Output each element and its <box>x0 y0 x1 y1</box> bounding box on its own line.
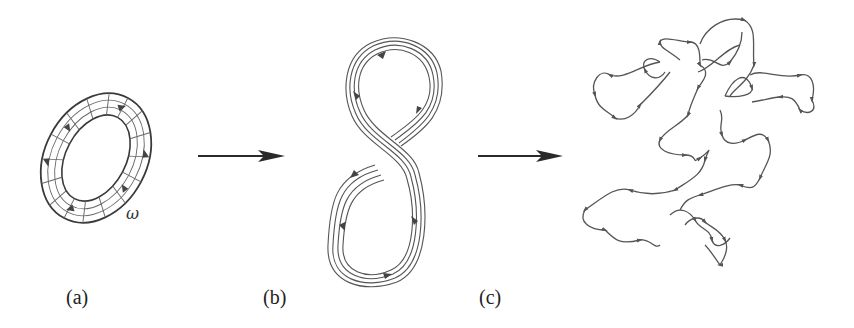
diagram-canvas <box>0 0 854 328</box>
vorticity-symbol: ω <box>126 204 139 223</box>
panel-label-b: (b) <box>263 286 286 309</box>
torus-vortex-tube <box>19 74 173 242</box>
tangled-vortex-filaments <box>583 19 814 265</box>
figure-eight-vortex-tube <box>328 38 442 287</box>
panel-label-c: (c) <box>479 286 501 309</box>
transition-arrow-a-to-b <box>198 150 285 162</box>
panel-label-a: (a) <box>66 286 88 309</box>
transition-arrow-b-to-c <box>478 150 563 162</box>
